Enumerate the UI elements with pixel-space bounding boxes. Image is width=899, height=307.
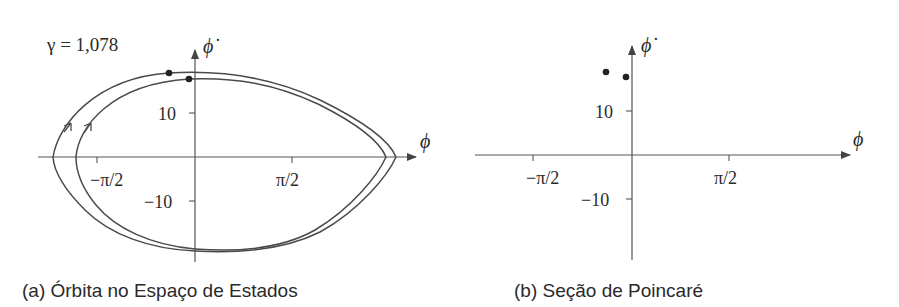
y-tick-label-10: 10: [158, 104, 176, 124]
x-axis-label: ϕ: [853, 128, 863, 151]
y-tick-label-10: 10: [595, 102, 613, 122]
panel-b: ϕ̇ ϕ −π/2 π/2 10 −10 (b) Seção de Poinca…: [475, 34, 863, 301]
caption-a: (a) Órbita no Espaço de Estados: [22, 280, 298, 301]
figure: γ = 1,078 ϕ̇ ϕ −π/2 π/2 10 −10 (a) Órbit…: [0, 0, 899, 307]
x-axis-label: ϕ: [420, 130, 430, 153]
y-axis-label: ϕ̇: [203, 35, 219, 58]
direction-arrow-inner: [84, 123, 91, 133]
poincare-point-2: [623, 74, 630, 81]
orbit-point-2: [186, 76, 193, 83]
orbit-outer: [53, 72, 396, 251]
x-tick-label-pi-half: π/2: [714, 168, 737, 188]
orbit-inner: [76, 79, 386, 250]
panel-a: γ = 1,078 ϕ̇ ϕ −π/2 π/2 10 −10 (a) Órbit…: [22, 34, 430, 301]
y-tick-label-neg-10: −10: [581, 190, 609, 210]
gamma-label: γ = 1,078: [46, 34, 118, 55]
orbit-point-1: [166, 70, 173, 77]
x-tick-label-pi-half: π/2: [276, 170, 299, 190]
poincare-point-1: [603, 69, 610, 76]
x-tick-label-neg-pi-half: −π/2: [90, 170, 123, 190]
y-axis-label: ϕ̇: [641, 34, 657, 57]
y-tick-label-neg-10: −10: [144, 192, 172, 212]
x-tick-label-neg-pi-half: −π/2: [526, 168, 559, 188]
caption-b: (b) Seção de Poincaré: [514, 280, 703, 301]
